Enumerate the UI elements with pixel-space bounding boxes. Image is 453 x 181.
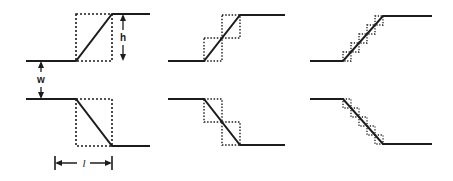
dimension-h: h bbox=[116, 14, 131, 61]
dimension-l-arrow-left bbox=[55, 160, 62, 166]
panel-bottom-left: l bbox=[26, 99, 150, 170]
edge-profile-diagram: h w bbox=[0, 0, 453, 181]
panel-bottom-right bbox=[310, 99, 432, 144]
panel-top-left: h w bbox=[16, 4, 152, 99]
profile-line-descending bbox=[310, 99, 432, 144]
dimension-l-label: l bbox=[82, 157, 85, 169]
panel-top-right bbox=[310, 16, 432, 61]
dimension-l: l bbox=[55, 156, 112, 170]
dimension-w-arrow-down bbox=[38, 92, 44, 99]
dimension-l-arrow-right bbox=[105, 160, 112, 166]
panel-bottom-middle bbox=[168, 99, 285, 145]
profile-line-ascending bbox=[26, 14, 150, 61]
profile-line-descending bbox=[26, 99, 150, 146]
dimension-h-label: h bbox=[120, 32, 126, 43]
dimension-h-arrow-up bbox=[120, 14, 126, 21]
dimension-h-arrow-down bbox=[120, 54, 126, 61]
panel-top-middle bbox=[168, 15, 285, 61]
dimension-w: w bbox=[34, 61, 49, 99]
profile-line-ascending bbox=[310, 16, 432, 61]
diagram-page: h w bbox=[0, 0, 453, 181]
dimension-w-arrow-up bbox=[38, 61, 44, 68]
dimension-w-label: w bbox=[36, 74, 45, 85]
